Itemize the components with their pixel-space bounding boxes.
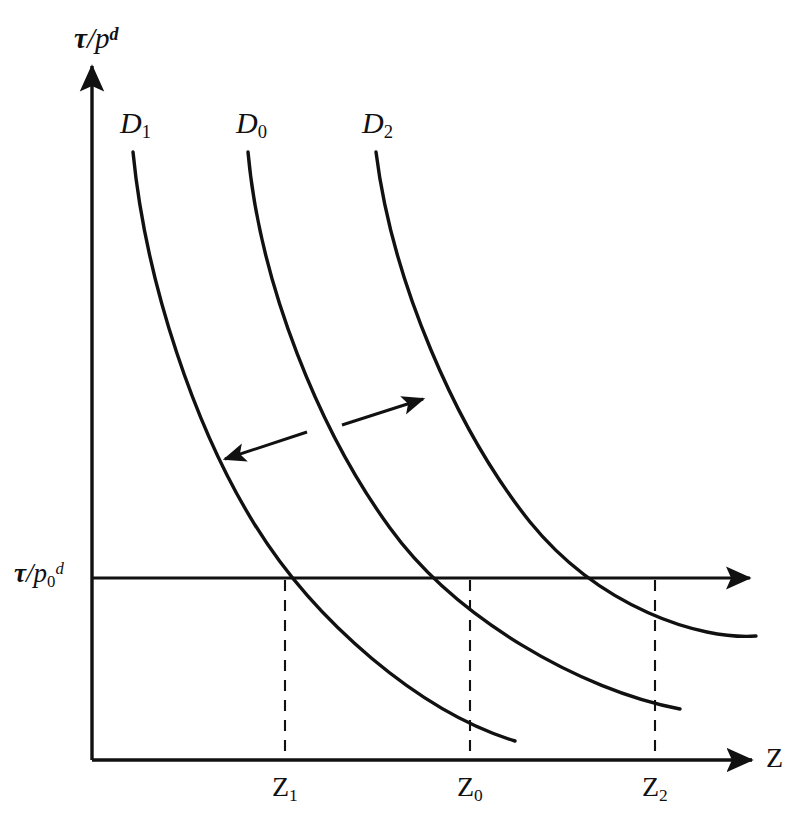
diagram-canvas: τ/pd τ/p0d D1 D0 D2 Z1 Z0 Z2 Z — [0, 0, 808, 825]
curve-label-d0-subscript: 0 — [258, 121, 267, 142]
curve-label-d1: D1 — [120, 108, 151, 142]
curve-label-d0-letter: D — [236, 106, 258, 139]
x-tick-label-z0-subscript: 0 — [474, 786, 483, 805]
y-axis-label-superscript: d — [109, 24, 118, 44]
curve-label-d2-subscript: 2 — [384, 121, 393, 142]
curve-label-d0: D0 — [236, 108, 267, 142]
demand-curve-d2 — [376, 152, 756, 636]
x-axis-label: Z — [766, 744, 783, 772]
equilibrium-price-label: τ/p0d — [14, 560, 64, 590]
x-tick-label-z1-subscript: 1 — [289, 786, 298, 805]
price-label-p: p — [34, 558, 48, 588]
demand-curve-d0 — [248, 152, 680, 709]
leftward-shift-arrow — [225, 432, 307, 459]
price-label-superscript: d — [55, 559, 63, 578]
x-tick-label-z2: Z2 — [642, 773, 668, 804]
demand-curve-d1 — [133, 152, 515, 741]
x-tick-label-z1: Z1 — [272, 773, 298, 804]
x-tick-label-z1-letter: Z — [272, 771, 289, 802]
y-axis-label-tau: τ — [74, 22, 87, 54]
y-axis-label-p: p — [95, 22, 110, 54]
x-tick-label-z0-letter: Z — [457, 771, 474, 802]
x-tick-label-z2-letter: Z — [642, 771, 659, 802]
curve-label-d2: D2 — [362, 108, 393, 142]
curve-label-d1-subscript: 1 — [142, 121, 151, 142]
y-axis-label-slash: / — [87, 22, 95, 54]
curve-label-d1-letter: D — [120, 106, 142, 139]
rightward-shift-arrow — [342, 399, 423, 425]
price-label-tau: τ — [14, 558, 26, 588]
y-axis-label: τ/pd — [74, 24, 118, 53]
curve-label-d2-letter: D — [362, 106, 384, 139]
price-label-slash: / — [26, 558, 34, 588]
x-tick-label-z0: Z0 — [457, 773, 483, 804]
x-tick-label-z2-subscript: 2 — [659, 786, 668, 805]
